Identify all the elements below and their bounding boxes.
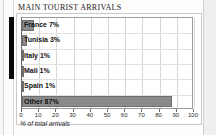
- gridline-vertical: [194, 18, 195, 108]
- x-axis-tick-label: 0: [14, 112, 28, 119]
- scrollbar-thumb[interactable]: [9, 17, 14, 79]
- bar-data-label: Mali 1%: [24, 66, 50, 75]
- bar-row: Other 87%: [22, 95, 194, 110]
- bar-row: Mali 1%: [22, 64, 194, 79]
- bar-data-label: Tunisia 3%: [24, 35, 60, 44]
- bar-row: Tunisia 3%: [22, 33, 194, 48]
- x-axis-tick-label: 40: [83, 112, 97, 119]
- bar-data-label: Spain 1%: [24, 81, 55, 90]
- x-axis-tick-label: 50: [100, 112, 114, 119]
- x-axis-tick-label: 20: [48, 112, 62, 119]
- x-axis-tick-label: 30: [66, 112, 80, 119]
- x-axis-label: % of total arrivals: [20, 120, 70, 127]
- bar-row: Spain 1%: [22, 79, 194, 94]
- screenshot-root: MAIN TOURIST ARRIVALS France 7%Tunisia 3…: [0, 0, 216, 135]
- page-title: MAIN TOURIST ARRIVALS: [18, 3, 122, 12]
- bar-data-label: France 7%: [24, 20, 59, 29]
- x-axis-tick-label: 70: [134, 112, 148, 119]
- document-right-margin: [204, 0, 216, 135]
- x-axis-tick-label: 90: [169, 112, 183, 119]
- bar-row: France 7%: [22, 18, 194, 33]
- x-axis-tick-label: 100: [186, 112, 200, 119]
- x-axis-tick-label: 80: [152, 112, 166, 119]
- x-axis-tick-label: 10: [31, 112, 45, 119]
- bar-data-label: Other 87%: [24, 97, 59, 106]
- bar-row: Italy 1%: [22, 49, 194, 64]
- bar-data-label: Italy 1%: [24, 51, 50, 60]
- x-axis-tick-label: 60: [117, 112, 131, 119]
- vertical-scrollbar[interactable]: [3, 0, 14, 135]
- plot-area: France 7%Tunisia 3%Italy 1%Mali 1%Spain …: [21, 17, 193, 109]
